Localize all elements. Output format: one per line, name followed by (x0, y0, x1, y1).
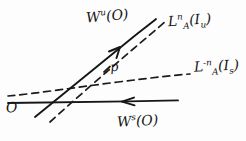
label-wu-argument: (O) (105, 6, 129, 24)
label-ws-argument: (O) (135, 112, 158, 129)
image-stable-line (8, 74, 190, 96)
stable-manifold-line (8, 100, 178, 103)
label-ws-base: W (117, 113, 132, 130)
image-unstable-line (50, 21, 166, 122)
label-image-stable: L-nA(Is) (194, 57, 240, 77)
label-lau-paren-close: ) (205, 10, 212, 26)
label-unstable-manifold: Wu(O) (85, 6, 129, 24)
label-fixed-point: O (6, 100, 18, 115)
label-intersection-point: p (109, 60, 119, 74)
label-las-paren-close: ) (233, 56, 239, 72)
label-las-superscript: -n (203, 57, 212, 67)
label-image-unstable: LnA(Iu) (167, 11, 211, 32)
manifold-diagram: Wu(O) LnA(Iu) L-nA(Is) p O Ws(O) (0, 0, 246, 141)
label-stable-manifold: Ws(O) (117, 112, 159, 129)
